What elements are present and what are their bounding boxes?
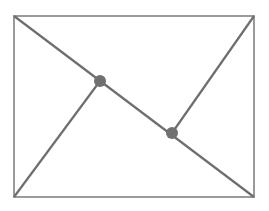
point-b [166, 127, 178, 139]
point-b-to-top-right-line [172, 16, 254, 133]
line-segments [14, 16, 254, 197]
point-a [94, 75, 106, 87]
geometry-diagram [0, 0, 269, 211]
diagonal-line [14, 16, 254, 197]
bottom-left-to-point-a-line [14, 81, 100, 197]
